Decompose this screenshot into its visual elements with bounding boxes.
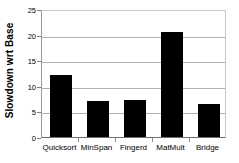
x-tick-mark bbox=[189, 138, 190, 142]
y-tick-label: 5 bbox=[32, 108, 36, 117]
bar-series bbox=[42, 11, 225, 137]
plot-area bbox=[41, 10, 226, 138]
y-tick-label: 10 bbox=[28, 82, 36, 91]
y-tick-mark bbox=[37, 138, 41, 139]
y-tick-label: 20 bbox=[28, 31, 36, 40]
bar-matmult bbox=[161, 32, 183, 137]
x-tick-mark bbox=[115, 138, 116, 142]
y-axis-title: Slowdown wrt Base bbox=[0, 0, 20, 140]
x-label-matmult: MatMult bbox=[156, 143, 184, 152]
x-label-fingerd: Fingerd bbox=[120, 143, 147, 152]
x-label-bridge: Bridge bbox=[196, 143, 219, 152]
y-tick-label: 25 bbox=[28, 6, 36, 15]
x-label-minspan: MinSpan bbox=[81, 143, 113, 152]
y-tick-label: 15 bbox=[28, 57, 36, 66]
bar-bridge bbox=[198, 104, 220, 137]
x-label-quicksort: Quicksort bbox=[43, 143, 77, 152]
x-tick-mark bbox=[78, 138, 79, 142]
x-axis-labels: Quicksort MinSpan Fingerd MatMult Bridge bbox=[41, 143, 226, 159]
chart-screenshot: Slowdown wrt Base 25 20 15 10 5 0 Quick bbox=[0, 0, 239, 163]
y-tick-label: 0 bbox=[32, 134, 36, 143]
y-axis-tick-labels: 25 20 15 10 5 0 bbox=[20, 0, 38, 163]
x-tick-mark bbox=[152, 138, 153, 142]
bar-minspan bbox=[87, 101, 109, 137]
bar-fingerd bbox=[124, 100, 146, 137]
y-axis-title-text: Slowdown wrt Base bbox=[5, 22, 16, 118]
bar-quicksort bbox=[50, 75, 72, 137]
